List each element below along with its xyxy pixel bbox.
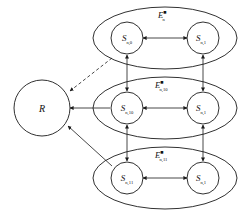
energy-label-top: E■n xyxy=(157,9,166,22)
energy-label-top-sup: ■ xyxy=(163,9,166,15)
state-node-top-left[interactable] xyxy=(111,22,143,54)
energy-label-bottom-sup: ■ xyxy=(160,149,163,155)
energy-label-middle-sub: n,10 xyxy=(159,87,168,93)
arrow-bottom-to-reward xyxy=(68,126,112,166)
energy-label-bottom: E■n,11 xyxy=(154,149,168,163)
energy-label-bottom-sub: n,11 xyxy=(159,157,168,163)
energy-label-top-sub: n xyxy=(162,17,165,22)
state-node-bottom-left[interactable] xyxy=(111,162,143,194)
diagram-canvas: R Sn,0 Sn,1 E■n Sn,10 Sn,1 E■n,10 Sn xyxy=(0,0,248,217)
reward-node-label: R xyxy=(38,103,45,114)
state-node-middle-left[interactable] xyxy=(111,92,143,124)
state-node-top-right[interactable] xyxy=(187,22,219,54)
energy-label-middle: E■n,10 xyxy=(154,79,168,93)
diagram-svg: R Sn,0 Sn,1 E■n Sn,10 Sn,1 E■n,10 Sn xyxy=(0,0,248,217)
state-node-bottom-right[interactable] xyxy=(187,162,219,194)
state-node-middle-right[interactable] xyxy=(187,92,219,124)
dashed-arrow-top-to-reward xyxy=(70,58,112,91)
energy-label-middle-sup: ■ xyxy=(160,79,163,85)
